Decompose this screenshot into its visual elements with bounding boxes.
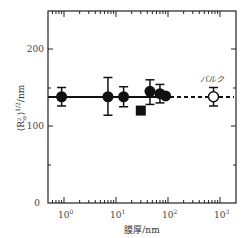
data-point-circle [160,90,171,101]
svg-text:103: 103 [214,208,229,220]
svg-text:102: 102 [162,208,177,220]
y-axis-title: ⟨R2zy⟩1/2/nm [14,84,28,131]
data-point-square [136,106,146,116]
y-tick-100: 100 [27,121,44,131]
data-point-circle [102,91,113,102]
data-point-circle [144,86,155,97]
data-point-circle [118,91,129,102]
chart: 0 100 200 100 101 102 103 膜厚/nm ⟨R2zy⟩1/… [0,0,244,238]
x-axis-title: 膜厚/nm [124,225,160,235]
x-tick-labels: 100 101 102 103 [58,208,229,220]
svg-text:100: 100 [58,208,73,220]
y-tick-0: 0 [34,198,40,208]
data-point-bulk [209,92,219,102]
data-point-circle [56,91,67,102]
y-tick-200: 200 [27,44,44,54]
svg-text:101: 101 [110,208,125,220]
bulk-annotation: バルク [200,75,225,84]
